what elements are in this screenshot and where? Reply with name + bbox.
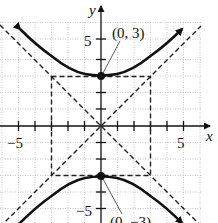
y-tick-label-neg5: −5: [76, 203, 92, 219]
asymptote-y-eq-neg-x: [0, 25, 199, 223]
vertex-top-point: [97, 72, 105, 80]
vertex-top-label: (0, 3): [112, 25, 145, 42]
y-axis-label: y: [87, 2, 96, 18]
x-tick-label-5: 5: [177, 135, 185, 151]
x-tick-label-neg5: −5: [7, 135, 23, 151]
y-tick-label-5: 5: [84, 33, 92, 49]
x-axis-label: x: [205, 128, 213, 144]
hyperbola-graph: y x 5 −5 −5 5 (0, 3) (0, −3): [0, 0, 218, 223]
vertex-bottom-label: (0, −3): [110, 214, 151, 223]
vertex-bottom-point: [97, 172, 105, 180]
